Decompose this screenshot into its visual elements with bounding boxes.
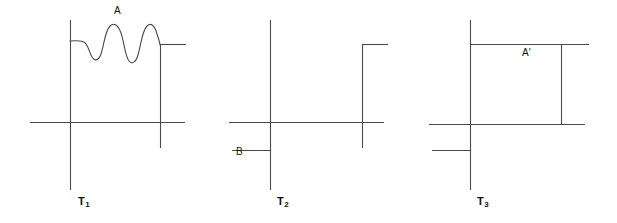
diagram-canvas: A B A' T1 T2 T3	[0, 0, 617, 223]
panel-label-t3: T3	[477, 196, 489, 207]
feature-label-A: A	[114, 6, 121, 16]
panel-t2-group	[229, 20, 388, 190]
panel-label-t2: T2	[277, 196, 289, 207]
panel-label-t2-subscript: 2	[284, 200, 289, 209]
panel-label-t1: T1	[78, 196, 90, 207]
panel-label-t3-subscript: 3	[484, 200, 489, 209]
panel-t3-group	[429, 20, 589, 190]
panel-t1-group	[30, 20, 186, 190]
panel-label-t1-subscript: 1	[85, 200, 90, 209]
feature-label-B: B	[236, 147, 243, 157]
t1-wave-curve-A	[70, 24, 160, 63]
diagram-linework	[0, 0, 617, 223]
feature-label-A-prime: A'	[522, 48, 531, 58]
